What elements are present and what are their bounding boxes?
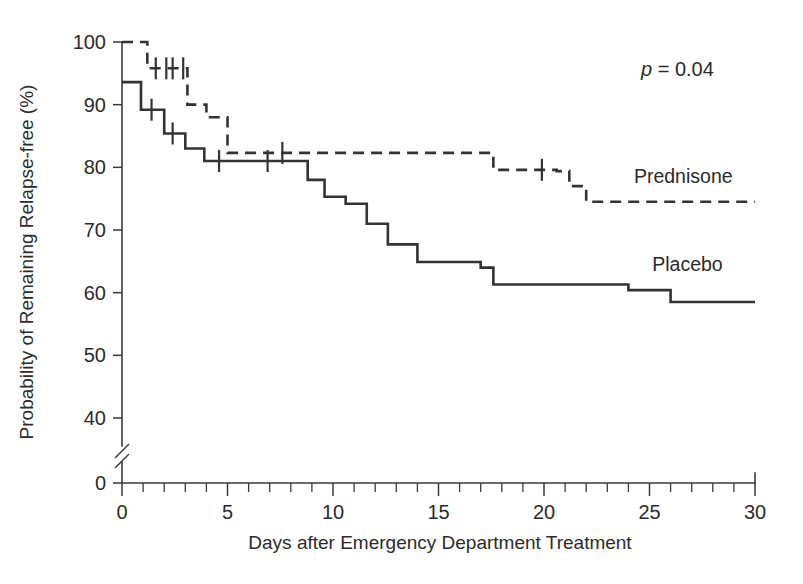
y-tick-label: 100: [73, 31, 106, 53]
x-tick-label: 30: [744, 501, 766, 523]
x-tick-label: 15: [427, 501, 449, 523]
x-tick-label: 20: [533, 501, 555, 523]
p-value-symbol: p: [640, 58, 652, 80]
y-axis-title: Probability of Remaining Relapse-free (%…: [16, 85, 37, 440]
x-tick-label: 25: [638, 501, 660, 523]
series-label-placebo: Placebo: [652, 253, 723, 275]
x-tick-label: 10: [322, 501, 344, 523]
chart-canvas: 4050607080901000 051015202530 Days after…: [0, 0, 803, 584]
x-axis-title: Days after Emergency Department Treatmen…: [248, 532, 632, 553]
y-tick-label: 60: [84, 282, 106, 304]
y-tick-label-zero: 0: [95, 472, 106, 494]
y-tick-label: 70: [84, 219, 106, 241]
y-tick-label: 90: [84, 94, 106, 116]
series-label-prednisone: Prednisone: [634, 165, 733, 187]
p-value-number: = 0.04: [652, 58, 714, 80]
y-tick-label: 40: [84, 407, 106, 429]
x-tick-label: 0: [116, 501, 127, 523]
p-value-annotation: p = 0.04: [640, 58, 714, 80]
y-tick-label: 50: [84, 344, 106, 366]
y-tick-label: 80: [84, 156, 106, 178]
kaplan-meier-figure: 4050607080901000 051015202530 Days after…: [0, 0, 803, 584]
x-tick-label: 5: [222, 501, 233, 523]
